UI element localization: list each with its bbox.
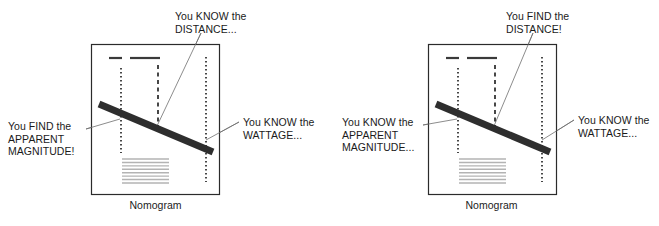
nomogram-panel-right: You FIND the DISTANCE! You KNOW the APPA… [330, 0, 659, 226]
nomogram-box-right [429, 45, 557, 195]
panel-caption-left: Nomogram [92, 199, 219, 212]
callout-wattage-left: You KNOW the WATTAGE... [243, 116, 314, 141]
nomogram-diagram-right [330, 0, 659, 226]
panel-caption-right: Nomogram [428, 199, 555, 212]
nomogram-diagram-left [0, 0, 329, 226]
nomogram-panel-left: You KNOW the DISTANCE... You FIND the AP… [0, 0, 329, 226]
callout-distance-left: You KNOW the DISTANCE... [175, 10, 246, 35]
callout-distance-right: You FIND the DISTANCE! [506, 10, 569, 35]
nomogram-box-left [92, 45, 220, 195]
callout-apparent-magnitude-left: You FIND the APPARENT MAGNITUDE! [8, 120, 74, 158]
figure-root: You KNOW the DISTANCE... You FIND the AP… [0, 0, 659, 226]
callout-wattage-right: You KNOW the WATTAGE... [578, 114, 649, 139]
callout-apparent-magnitude-right: You KNOW the APPARENT MAGNITUDE... [342, 116, 414, 154]
